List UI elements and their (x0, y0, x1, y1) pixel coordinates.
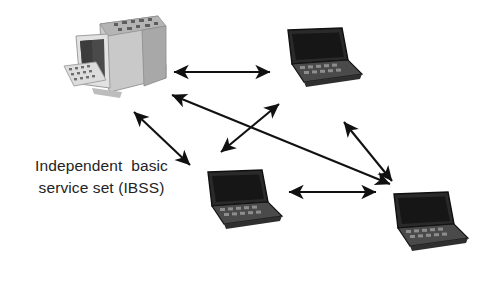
diagram-caption: Independent basic service set (IBSS) (14, 155, 189, 199)
laptop-icon (384, 190, 472, 258)
ibss-network-diagram: Independent basic service set (IBSS) (0, 0, 485, 286)
link-topright-bottomcenter (221, 104, 279, 152)
laptop-icon (278, 26, 364, 90)
caption-line-1: Independent basic (14, 155, 189, 177)
link-topright-bottomright (344, 122, 392, 181)
laptop-icon (198, 168, 284, 234)
node-desktop-pc (62, 8, 174, 106)
desktop-computer-icon (62, 8, 174, 106)
node-laptop-bottom-center (198, 168, 284, 238)
node-laptop-top-right (278, 26, 364, 94)
node-laptop-bottom-right (384, 190, 472, 262)
caption-line-2: service set (IBSS) (14, 177, 189, 199)
